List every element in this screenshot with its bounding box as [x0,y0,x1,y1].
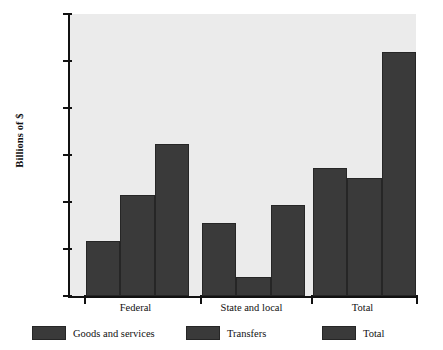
legend-label: Total [363,328,384,339]
y-axis-tick [63,60,72,62]
bar-total-goods-and-services [313,168,347,296]
bar-federal-total [155,144,189,296]
x-axis-category-label: Total [352,302,373,313]
x-axis-tick [200,295,202,304]
legend-label: Goods and services [73,328,155,339]
x-axis-tick [311,295,313,304]
legend-swatch-icon [32,326,66,340]
plot-area: 05001,0001,5002,0002,5003,000 [68,14,416,298]
y-axis-label: Billions of $ [14,91,25,191]
y-axis-tick [63,107,72,109]
x-axis-tick [416,295,418,304]
legend-swatch-icon [322,326,356,340]
y-axis-tick [63,201,72,203]
legend-swatch-icon [186,326,220,340]
y-axis-tick [63,154,72,156]
y-axis-tick [63,248,72,250]
x-axis-category-label: State and local [221,302,283,313]
y-axis-tick [63,13,72,15]
x-axis-category-label: Federal [120,302,152,313]
bar-federal-goods-and-services [86,241,120,296]
legend-label: Transfers [227,328,266,339]
legend-item-transfers[interactable]: Transfers [186,325,266,341]
bar-total-total [382,52,416,296]
bar-chart: Billions of $ 05001,0001,5002,0002,5003,… [0,0,443,350]
plot-inner: 05001,0001,5002,0002,5003,000 [70,14,416,296]
bar-state-and-local-total [271,205,305,296]
legend-item-total[interactable]: Total [322,325,384,341]
bar-state-and-local-goods-and-services [202,223,236,296]
y-axis-tick [63,295,72,297]
legend-item-goods-and-services[interactable]: Goods and services [32,325,155,341]
x-axis-tick [84,295,86,304]
bar-state-and-local-transfers [236,277,270,296]
chart-legend: Goods and servicesTransfersTotal [0,325,443,345]
bar-total-transfers [347,178,381,296]
bar-federal-transfers [120,195,154,296]
